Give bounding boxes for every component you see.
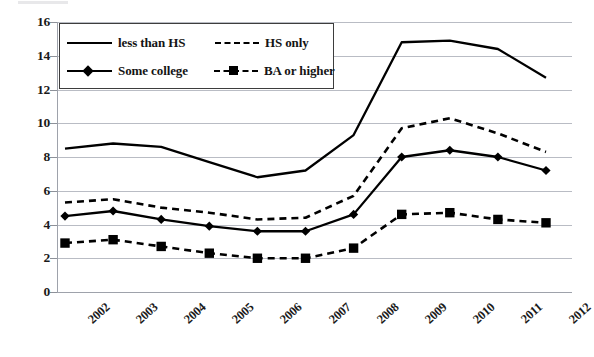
- legend-entry-hs-only: HS only: [214, 35, 333, 51]
- solid-line-icon: [67, 36, 112, 50]
- data-point-marker: [397, 210, 406, 219]
- data-point-marker: [445, 208, 454, 217]
- legend-row: Some college BA or higher: [60, 57, 333, 85]
- legend-entry-less-than-hs: less than HS: [60, 35, 214, 51]
- data-point-marker: [493, 215, 502, 224]
- data-point-marker: [109, 206, 118, 215]
- legend-entry-some-college: Some college: [60, 63, 213, 79]
- chart-legend: less than HS HS only Some college BA or …: [59, 23, 334, 89]
- data-point-marker: [301, 227, 310, 236]
- data-point-marker: [301, 254, 310, 263]
- legend-label: Some college: [118, 63, 188, 79]
- data-point-marker: [541, 166, 550, 175]
- data-point-marker: [541, 218, 550, 227]
- data-point-marker: [157, 242, 166, 251]
- series-line-hs-only: [65, 118, 546, 219]
- legend-row: less than HS HS only: [60, 29, 333, 57]
- data-point-marker: [349, 243, 358, 252]
- data-point-marker: [157, 215, 166, 224]
- legend-label: BA or higher: [264, 63, 335, 79]
- legend-label: less than HS: [118, 35, 185, 51]
- dashed-line-square-marker-icon: [213, 64, 258, 78]
- dashed-line-icon: [214, 36, 259, 50]
- data-point-marker: [60, 211, 69, 220]
- data-point-marker: [493, 152, 502, 161]
- data-point-marker: [60, 238, 69, 247]
- data-point-marker: [253, 254, 262, 263]
- data-point-marker: [205, 248, 214, 257]
- legend-entry-ba-or-higher: BA or higher: [213, 63, 333, 79]
- data-point-marker: [445, 146, 454, 155]
- data-point-marker: [108, 235, 117, 244]
- data-point-marker: [205, 222, 214, 231]
- data-point-marker: [253, 227, 262, 236]
- solid-line-diamond-marker-icon: [67, 64, 112, 78]
- legend-label: HS only: [265, 35, 309, 51]
- series-line-some-college: [65, 150, 546, 231]
